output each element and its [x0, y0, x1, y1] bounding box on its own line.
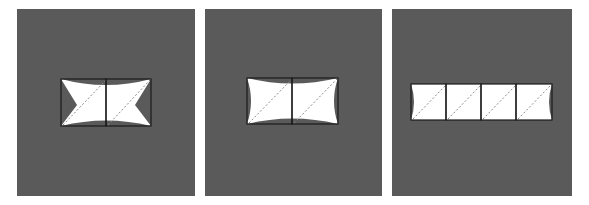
panel-1 — [17, 9, 195, 196]
panel-3-drawing — [392, 9, 572, 196]
panel-2-drawing — [205, 9, 382, 196]
panel-3 — [392, 9, 572, 196]
panel-2 — [205, 9, 382, 196]
figure — [0, 0, 589, 205]
panel-1-drawing — [17, 9, 195, 196]
